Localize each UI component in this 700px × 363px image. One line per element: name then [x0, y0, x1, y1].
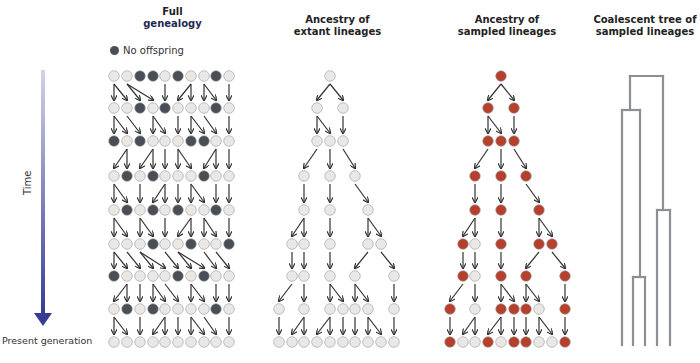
descent-arrow — [114, 184, 127, 202]
no-offspring-circle — [186, 136, 197, 147]
no-offspring-circle — [148, 304, 159, 315]
descent-arrow — [514, 149, 526, 168]
individual-circle — [160, 304, 171, 315]
individual-circle — [224, 136, 235, 147]
ancestor-circle — [299, 304, 310, 315]
individual-circle — [160, 171, 171, 182]
individual-circle — [211, 136, 222, 147]
descent-arrow — [539, 218, 552, 236]
descent-arrow — [140, 149, 153, 168]
no-offspring-circle — [186, 239, 197, 250]
sampled-ancestor-circle — [521, 271, 532, 282]
descent-arrow — [114, 218, 127, 236]
sampled-ancestor-circle — [458, 271, 469, 282]
individual-circle — [109, 304, 120, 315]
descent-arrow — [526, 252, 539, 268]
no-offspring-circle — [211, 304, 222, 315]
ancestor-circle — [376, 337, 387, 348]
descent-arrow — [140, 218, 153, 236]
ancestor-circle — [363, 205, 374, 216]
no-offspring-circle — [199, 136, 210, 147]
ancestor-circle — [338, 103, 349, 114]
individual-circle — [109, 205, 120, 216]
individual-circle — [224, 103, 235, 114]
individual-circle — [173, 171, 184, 182]
ancestor-circle — [325, 239, 336, 250]
no-offspring-circle — [122, 171, 133, 182]
individual-circle — [148, 271, 159, 282]
individual-circle — [224, 271, 235, 282]
no-offspring-circle — [199, 271, 210, 282]
ancestor-circle — [350, 271, 361, 282]
individual-circle — [135, 239, 146, 250]
sampled-ancestor-circle — [470, 205, 481, 216]
extant-lineages-panel — [274, 71, 400, 348]
sampled-ancestor-circle — [445, 337, 456, 348]
no-offspring-circle — [211, 103, 222, 114]
sampled-ancestor-circle — [496, 71, 507, 82]
sampled-ancestor-circle — [470, 171, 481, 182]
descent-arrow — [330, 284, 343, 301]
unsampled-circle — [547, 337, 558, 348]
individual-circle — [224, 171, 235, 182]
ancestor-circle — [338, 304, 349, 315]
descent-arrow — [204, 116, 216, 133]
descent-arrow — [463, 317, 475, 334]
descent-arrow — [191, 116, 204, 133]
no-offspring-circle — [135, 103, 146, 114]
individual-circle — [199, 239, 210, 250]
ancestor-circle — [274, 337, 285, 348]
sampled-ancestor-circle — [496, 205, 507, 216]
descent-arrow — [204, 252, 216, 268]
individual-circle — [122, 103, 133, 114]
descent-arrow — [343, 149, 355, 168]
no-offspring-circle — [122, 205, 133, 216]
descent-arrow — [127, 84, 153, 100]
sampled-ancestor-circle — [509, 103, 520, 114]
unsampled-circle — [470, 239, 481, 250]
sampled-ancestor-circle — [496, 271, 507, 282]
descent-arrow — [279, 284, 292, 301]
descent-arrow — [355, 184, 368, 202]
ancestor-circle — [299, 271, 310, 282]
sampled-ancestor-circle — [445, 304, 456, 315]
descent-arrow — [539, 317, 552, 334]
individual-circle — [173, 304, 184, 315]
descent-arrow — [381, 252, 394, 268]
descent-arrow — [355, 252, 368, 268]
individual-circle — [148, 337, 159, 348]
unsampled-circle — [470, 304, 481, 315]
descent-arrow — [178, 218, 191, 236]
descent-arrow — [204, 317, 216, 334]
descent-arrow — [204, 149, 216, 168]
ancestor-circle — [363, 239, 374, 250]
genealogy-diagram — [0, 0, 700, 363]
sampled-lineages-panel — [445, 71, 571, 348]
ancestor-circle — [325, 271, 336, 282]
ancestor-circle — [376, 239, 387, 250]
sampled-ancestor-circle — [521, 171, 532, 182]
ancestor-circle — [299, 337, 310, 348]
descent-arrow — [114, 84, 127, 100]
ancestor-circle — [287, 239, 298, 250]
descent-arrow — [488, 317, 501, 334]
ancestor-circle — [350, 337, 361, 348]
descent-arrow — [153, 116, 165, 133]
descent-arrow — [304, 149, 317, 168]
ancestor-circle — [299, 171, 310, 182]
individual-circle — [186, 304, 197, 315]
descent-arrow — [463, 218, 475, 236]
no-offspring-circle — [148, 205, 159, 216]
descent-arrow — [475, 149, 488, 168]
unsampled-circle — [458, 337, 469, 348]
individual-circle — [135, 271, 146, 282]
ancestor-circle — [312, 337, 323, 348]
no-offspring-circle — [148, 239, 159, 250]
individual-circle — [148, 103, 159, 114]
descent-arrow — [330, 84, 343, 100]
ancestor-circle — [325, 136, 336, 147]
individual-circle — [186, 271, 197, 282]
descent-arrow — [191, 184, 204, 202]
no-offspring-circle — [135, 71, 146, 82]
individual-circle — [148, 136, 159, 147]
